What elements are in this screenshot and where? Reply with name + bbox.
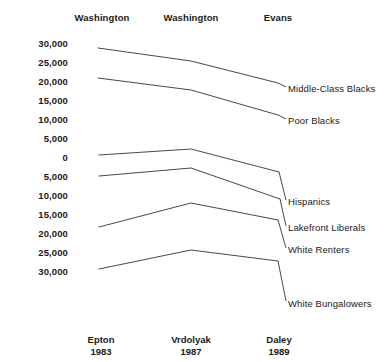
y-tick-10000-neg: 10,000 [38, 190, 68, 201]
x-tick-1987-year: 1987 [171, 346, 211, 358]
y-tick-10000-pos: 10,000 [38, 114, 68, 125]
y-tick-20000-pos: 20,000 [38, 76, 68, 87]
x-tick-1983-year: 1983 [88, 346, 115, 358]
leader-line-white-bungalowers [278, 261, 286, 301]
leader-line-white-renters [278, 220, 286, 248]
y-tick-30000-pos: 30,000 [38, 38, 68, 49]
leader-line-middle-class-blacks [278, 83, 286, 87]
series-line-white-bungalowers [99, 250, 278, 269]
series-line-lakefront-liberals [99, 168, 280, 199]
leader-line-poor-blacks [278, 115, 286, 119]
x-tick-1989: Daley 1989 [266, 334, 291, 358]
chart-container: Washington Washington Evans 30,000 25,00… [0, 0, 384, 362]
x-tick-1989-name: Daley [266, 334, 291, 346]
y-tick-30000-neg: 30,000 [38, 266, 68, 277]
y-axis: 30,000 25,000 20,000 15,000 10,000 5,000… [0, 0, 68, 362]
series-line-white-renters [99, 203, 278, 227]
y-tick-25000-pos: 25,000 [38, 57, 68, 68]
column-header-1983: Washington [75, 12, 130, 23]
x-tick-1989-year: 1989 [266, 346, 291, 358]
y-tick-20000-neg: 20,000 [38, 228, 68, 239]
leader-line-hispanics [279, 172, 286, 200]
y-tick-15000-pos: 15,000 [38, 95, 68, 106]
y-tick-zero: 0 [63, 152, 68, 163]
y-tick-25000-neg: 25,000 [38, 247, 68, 258]
y-tick-5000-pos: 5,000 [44, 133, 68, 144]
y-tick-15000-neg: 15,000 [38, 209, 68, 220]
series-line-hispanics [99, 149, 279, 172]
series-line-poor-blacks [98, 78, 278, 115]
column-header-1989: Evans [264, 12, 293, 23]
series-label-white-renters: White Renters [288, 244, 350, 255]
series-line-middle-class-blacks [98, 48, 278, 83]
series-label-lakefront-liberals: Lakefront Liberals [288, 222, 365, 233]
x-tick-1983: Epton 1983 [88, 334, 115, 358]
x-tick-1983-name: Epton [88, 334, 115, 346]
series-label-middle-class-blacks: Middle-Class Blacks [288, 83, 375, 94]
series-label-white-bungalowers: White Bungalowers [288, 298, 372, 309]
y-tick-5000-neg: 5,000 [44, 171, 68, 182]
leader-line-lakefront-liberals [280, 199, 286, 226]
column-header-1987: Washington [164, 12, 219, 23]
x-tick-1987-name: Vrdolyak [171, 334, 211, 346]
series-label-hispanics: Hispanics [288, 196, 330, 207]
series-label-poor-blacks: Poor Blacks [288, 115, 340, 126]
x-tick-1987: Vrdolyak 1987 [171, 334, 211, 358]
